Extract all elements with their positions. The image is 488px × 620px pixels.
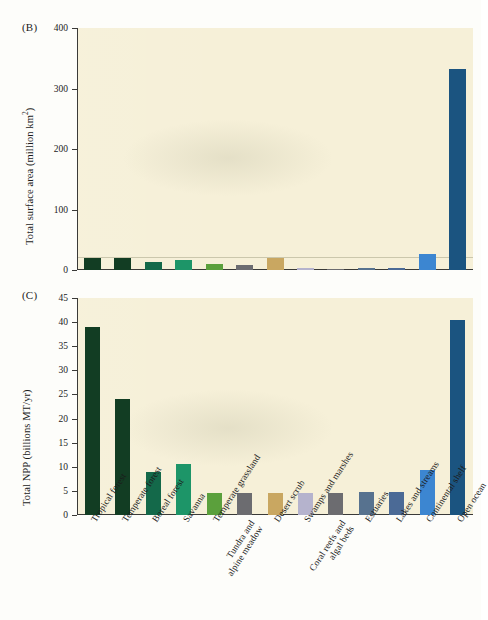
panel-c-y-tick-label: 45 [35, 293, 68, 303]
panel-c-y-tick-label: 10 [35, 462, 68, 472]
panel-b-bar [388, 268, 405, 270]
panel-b-y-tick [72, 270, 77, 271]
panel-c-y-tick [72, 298, 77, 299]
panel-c-bar [85, 327, 100, 515]
panel-b-paper-texture [78, 28, 473, 269]
panel-b-bar [236, 265, 253, 270]
panel-b-y-tick-label: 400 [35, 23, 68, 33]
panel-c-y-tick-label: 15 [35, 438, 68, 448]
x-axis-category-label: Tundra andalpine meadow [196, 519, 264, 610]
panel-b-bar [449, 69, 466, 270]
panel-b-y-tick [72, 149, 77, 150]
panel-b-bar [175, 260, 192, 270]
panel-b-bar [206, 264, 223, 270]
panel-c-y-tick [72, 370, 77, 371]
panel-b-y-tick-label: 0 [35, 265, 68, 275]
panel-c-bar [328, 493, 343, 515]
panel-b-bar [114, 258, 131, 270]
panel-c-y-tick [72, 515, 77, 516]
panel-c-bar [115, 399, 130, 515]
panel-b-y-tick [72, 28, 77, 29]
panel-b-plot-area [77, 28, 473, 270]
panel-c-y-tick [72, 443, 77, 444]
panel-c-bar [237, 493, 252, 515]
panel-b-y-axis-title: Total surface area (million km2) [21, 108, 35, 245]
panel-c-y-tick-label: 20 [35, 414, 68, 424]
panel-c-y-tick [72, 491, 77, 492]
panel-b-bar [327, 269, 344, 270]
panel-c-y-tick [72, 467, 77, 468]
x-axis-category-label: Coral reefs andalgal beds [288, 519, 356, 610]
panel-b-y-tick [72, 89, 77, 90]
panel-c-y-tick [72, 419, 77, 420]
panel-c-y-axis-title: Total NPP (billions MT/yr) [21, 389, 32, 506]
panel-c-y-tick [72, 394, 77, 395]
panel-b-y-tick-label: 100 [35, 205, 68, 215]
panel-c-paper-texture [78, 298, 473, 514]
panel-b-y-tick-label: 200 [35, 144, 68, 154]
panel-c-y-tick-label: 25 [35, 389, 68, 399]
panel-b-bar [145, 262, 162, 270]
panel-c-y-tick-label: 35 [35, 341, 68, 351]
panel-c-y-tick [72, 346, 77, 347]
panel-b-bar [419, 254, 436, 270]
panel-c-y-tick [72, 322, 77, 323]
panel-b-bar [358, 268, 375, 270]
panel-c-y-tick-label: 30 [35, 365, 68, 375]
panel-b-bar [84, 258, 101, 270]
panel-c-y-tick-label: 5 [35, 486, 68, 496]
panel-b-bar [297, 268, 314, 270]
panel-c-y-tick-label: 40 [35, 317, 68, 327]
panel-b-y-tick-label: 300 [35, 84, 68, 94]
panel-c-plot-area [77, 298, 473, 515]
panel-b-y-tick [72, 210, 77, 211]
panel-b-bar [267, 258, 284, 270]
panel-c-y-tick-label: 0 [35, 510, 68, 520]
